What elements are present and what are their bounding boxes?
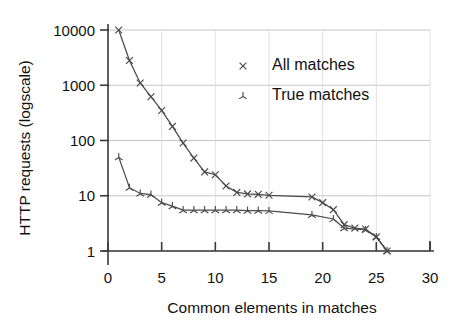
x-axis-title: Common elements in matches bbox=[167, 299, 377, 316]
y-axis-title: HTTP requests (logscale) bbox=[16, 60, 33, 235]
x-tick-label: 25 bbox=[368, 269, 385, 286]
x-tick-label: 5 bbox=[157, 269, 165, 286]
data-point-marker bbox=[330, 206, 337, 213]
data-point-marker bbox=[190, 155, 197, 162]
grid-lines bbox=[108, 30, 430, 251]
y-tick-label: 1000 bbox=[62, 77, 95, 94]
data-point-marker bbox=[136, 189, 144, 196]
axis-frame bbox=[102, 24, 434, 265]
legend: All matchesTrue matches bbox=[239, 56, 369, 103]
data-point-marker bbox=[126, 184, 134, 191]
x-tick-label: 20 bbox=[314, 269, 331, 286]
data-point-marker bbox=[169, 123, 176, 130]
x-tick-label: 10 bbox=[207, 269, 224, 286]
data-point-marker bbox=[126, 57, 133, 64]
data-point-marker bbox=[223, 183, 230, 190]
y-tick-label: 10000 bbox=[53, 22, 95, 39]
data-point-marker bbox=[148, 93, 155, 100]
legend-label: All matches bbox=[272, 56, 355, 73]
y-tick-label: 1 bbox=[87, 243, 95, 260]
y-tick-label: 100 bbox=[70, 132, 95, 149]
chart-figure: 100001000100101 051015202530 All matches… bbox=[0, 0, 463, 334]
legend-label: True matches bbox=[272, 86, 369, 103]
x-tick-label: 0 bbox=[104, 269, 112, 286]
series-true-matches bbox=[115, 153, 391, 254]
y-tick-label: 10 bbox=[78, 187, 95, 204]
y-axis-tick-labels: 100001000100101 bbox=[53, 22, 95, 260]
x-axis-tick-labels: 051015202530 bbox=[104, 269, 439, 286]
x-tick-label: 30 bbox=[422, 269, 439, 286]
data-point-marker bbox=[240, 63, 247, 70]
data-point-marker bbox=[239, 92, 247, 99]
chart-canvas: 100001000100101 051015202530 All matches… bbox=[0, 0, 463, 334]
x-tick-label: 15 bbox=[261, 269, 278, 286]
